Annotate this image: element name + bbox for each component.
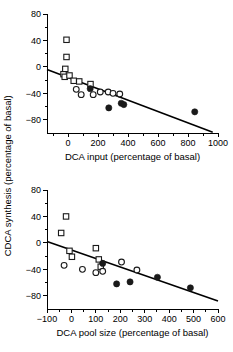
data-point-open-circle: [90, 92, 96, 98]
scatter-panel-bottom: −80−4004080−1000100200300400500600DCA po…: [0, 176, 233, 352]
x-tick-label: 0: [65, 138, 70, 148]
plot-area-top: −80−400408002004006008001000DCA input (p…: [0, 0, 233, 176]
x-tick-label: 200: [113, 314, 128, 324]
data-point-open-circle: [100, 268, 106, 274]
data-point-filled-circle: [127, 279, 133, 285]
x-tick-label: 200: [90, 138, 105, 148]
x-tick-label: 400: [120, 138, 135, 148]
x-axis-title: DCA input (percentage of basal): [65, 151, 200, 162]
x-tick-label: −100: [37, 314, 57, 324]
data-point-filled-circle: [187, 285, 193, 291]
data-point-open-circle: [117, 91, 123, 97]
data-point-open-circle: [80, 266, 86, 272]
x-tick-label: 600: [210, 314, 225, 324]
scatter-panel-top: −80−400408002004006008001000DCA input (p…: [0, 0, 233, 176]
data-point-open-circle: [78, 92, 84, 98]
x-tick-label: 100: [88, 314, 103, 324]
x-tick-label: 600: [150, 138, 165, 148]
x-tick-label: 1000: [208, 138, 228, 148]
x-tick-label: 800: [180, 138, 195, 148]
data-point-filled-circle: [114, 281, 120, 287]
data-point-open-square: [64, 54, 69, 59]
data-point-filled-circle: [106, 105, 112, 111]
data-point-filled-circle: [121, 101, 127, 107]
data-point-open-circle: [97, 89, 103, 95]
y-tick-label: 80: [31, 9, 41, 19]
y-tick-label: −40: [26, 89, 41, 99]
data-point-open-square: [67, 73, 72, 78]
data-point-open-square: [63, 66, 68, 71]
y-tick-label: 80: [31, 185, 41, 195]
data-point-open-square: [93, 245, 98, 250]
data-point-filled-circle: [100, 260, 106, 266]
data-point-open-square: [63, 214, 68, 219]
y-tick-label: −80: [26, 115, 41, 125]
data-point-open-circle: [93, 270, 99, 276]
data-point-open-square: [69, 254, 74, 259]
plot-area-bottom: −80−4004080−1000100200300400500600DCA po…: [0, 176, 233, 352]
y-tick-label: 40: [31, 36, 41, 46]
x-tick-label: 0: [69, 314, 74, 324]
data-point-open-square: [67, 248, 72, 253]
data-point-open-square: [64, 37, 69, 42]
y-tick-label: −40: [26, 265, 41, 275]
x-tick-label: 400: [162, 314, 177, 324]
y-tick-label: 0: [36, 62, 41, 72]
y-tick-label: −80: [26, 291, 41, 301]
data-point-filled-circle: [87, 86, 93, 92]
x-tick-label: 300: [137, 314, 152, 324]
data-point-open-square: [58, 230, 63, 235]
data-point-open-circle: [73, 86, 79, 92]
figure-container: CDCA synthesis (percentage of basal) −80…: [0, 0, 233, 352]
data-point-open-circle: [134, 267, 140, 273]
x-tick-label: 500: [186, 314, 201, 324]
data-point-open-square: [71, 78, 76, 83]
data-point-open-circle: [119, 259, 125, 265]
data-point-filled-circle: [154, 274, 160, 280]
data-point-open-circle: [61, 262, 67, 268]
y-tick-label: 0: [36, 238, 41, 248]
y-tick-label: 40: [31, 212, 41, 222]
data-point-open-circle: [110, 90, 116, 96]
x-axis-title: DCA pool size (percentage of basal): [56, 327, 208, 338]
data-point-filled-circle: [192, 109, 198, 115]
data-point-open-square: [77, 79, 82, 84]
